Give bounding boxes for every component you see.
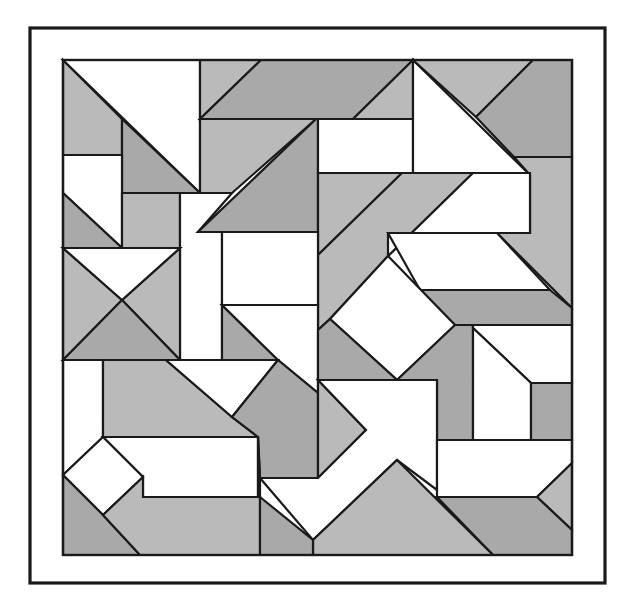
quilt-piece-p35 [531,383,572,440]
quilt-piece-p6 [122,193,180,248]
quilt-pieces [63,60,572,555]
quilt-piece-p21 [222,232,318,305]
quilt-pattern-canvas [0,0,633,615]
quilt-piece-p13 [318,119,413,173]
